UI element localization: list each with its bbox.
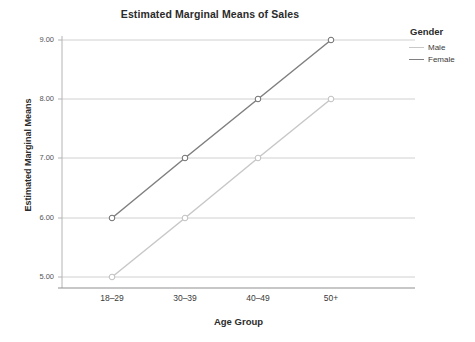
data-point bbox=[255, 96, 261, 102]
legend-swatch-male-icon bbox=[409, 47, 424, 48]
axis-lines bbox=[58, 36, 415, 288]
legend: Gender Male Female bbox=[409, 26, 475, 66]
gridlines bbox=[62, 40, 415, 277]
data-point bbox=[328, 96, 334, 102]
series-male bbox=[109, 96, 334, 280]
legend-item-female[interactable]: Female bbox=[409, 54, 475, 65]
legend-item-male[interactable]: Male bbox=[409, 42, 475, 53]
plot-area bbox=[0, 0, 475, 342]
legend-title: Gender bbox=[409, 26, 475, 37]
x-axis-title: Age Group bbox=[62, 316, 415, 327]
legend-swatch-female-icon bbox=[409, 59, 424, 60]
series-female bbox=[109, 37, 334, 221]
profile-plot-figure: Estimated Marginal Means of Sales bbox=[0, 0, 475, 342]
data-point bbox=[328, 37, 334, 43]
data-point bbox=[109, 274, 115, 280]
data-point bbox=[255, 155, 261, 161]
x-tick-label-50-plus: 50+ bbox=[288, 293, 374, 303]
data-point bbox=[182, 215, 188, 221]
legend-label-male: Male bbox=[428, 43, 445, 52]
data-point bbox=[182, 155, 188, 161]
y-tick-label-9: 9.00 bbox=[20, 35, 54, 44]
data-point bbox=[109, 215, 115, 221]
y-tick-marks bbox=[58, 40, 62, 277]
y-axis-title: Estimated Marginal Means bbox=[23, 80, 33, 230]
y-tick-label-5: 5.00 bbox=[20, 272, 54, 281]
legend-label-female: Female bbox=[428, 55, 455, 64]
